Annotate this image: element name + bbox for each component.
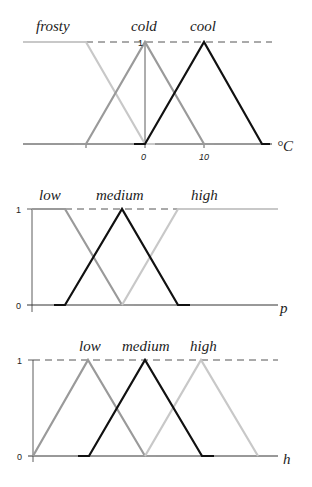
label-medium: medium bbox=[122, 338, 170, 354]
label-medium: medium bbox=[96, 187, 144, 203]
y-tick-0: 0 bbox=[16, 301, 21, 311]
label-low: low bbox=[79, 338, 101, 354]
label-frosty: frosty bbox=[36, 18, 70, 34]
label-cold: cold bbox=[131, 18, 157, 34]
y-tick-1: 1 bbox=[16, 205, 21, 215]
fuzzy-membership-diagram: frosty cold cool 1 0 10 °C low medium hi… bbox=[0, 0, 312, 487]
y-tick-1: 1 bbox=[138, 38, 143, 48]
high-membership bbox=[145, 360, 258, 456]
label-high: high bbox=[190, 338, 217, 354]
axis-label-celsius: °C bbox=[277, 138, 294, 154]
axis-label-p: p bbox=[279, 300, 288, 316]
low-membership bbox=[32, 209, 134, 305]
y-tick-1: 1 bbox=[17, 356, 22, 366]
x-tick-0: 0 bbox=[141, 152, 146, 162]
p-chart: low medium high 1 0 p bbox=[16, 187, 288, 316]
x-tick-10: 10 bbox=[199, 152, 209, 162]
h-chart: low medium high 1 0 h bbox=[17, 338, 291, 467]
label-low: low bbox=[39, 187, 61, 203]
y-tick-0: 0 bbox=[17, 452, 22, 462]
axis-label-h: h bbox=[283, 451, 291, 467]
label-cool: cool bbox=[190, 18, 216, 34]
temperature-chart: frosty cold cool 1 0 10 °C bbox=[23, 18, 294, 162]
label-high: high bbox=[191, 187, 218, 203]
high-membership bbox=[122, 209, 278, 305]
